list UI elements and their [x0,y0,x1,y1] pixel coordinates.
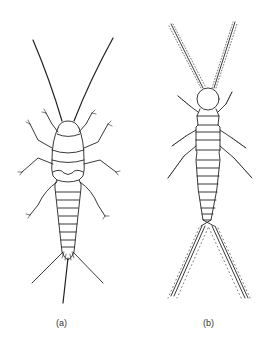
body-outline-b [196,109,220,220]
cercus-left-b-inner [174,226,205,296]
leg-b-r1 [218,92,232,112]
head-b [197,88,219,110]
leg-b-l3 [168,146,196,178]
cercus-right-b-inner [215,226,248,298]
cercus-left-b [171,226,202,296]
antenna-right-b [214,22,235,88]
leg-a-l3 [22,158,53,172]
leg-a-r3 [84,160,116,172]
cercus-right-a [73,252,103,283]
insect-a [18,38,120,303]
leg-a-r4 [80,182,105,216]
panel-label-a: (a) [56,318,67,328]
leg-a-l1 [46,113,58,132]
leg-b-r3 [220,146,252,178]
leg-a-l2 [30,124,52,148]
leg-a-r2 [84,124,108,148]
cercus-left-a [32,252,63,283]
cercus-right-b [212,226,245,298]
median-filament-a [63,258,68,303]
panel-label-b: (b) [203,318,214,328]
head-a [58,121,79,128]
antenna-left-a [33,40,62,121]
antenna-right-a [74,38,113,121]
leg-a-r1 [79,113,92,132]
insect-b [168,22,252,300]
antenna-left-b [171,24,203,88]
figure-illustration [0,0,271,345]
leg-a-l4 [30,182,57,215]
